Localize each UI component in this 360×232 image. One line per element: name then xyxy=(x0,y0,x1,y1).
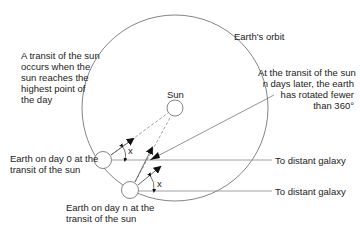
arrow-callout-head xyxy=(150,152,160,160)
earth-day0-label: Earth on day 0 at the transit of the sun xyxy=(10,153,98,175)
sun xyxy=(167,100,183,116)
angle-label-1: x xyxy=(128,145,133,156)
earth-dayn-label: Earth on day n at the transit of the sun xyxy=(66,202,154,224)
galaxy-label-2: To distant galaxy xyxy=(275,186,346,197)
angle-label-2: x xyxy=(157,178,162,189)
earth-dayn xyxy=(122,182,139,199)
angle-arc-dayn xyxy=(150,175,154,191)
transit-definition-text: A transit of the sun occurs when the sun… xyxy=(21,50,100,105)
diagram-canvas xyxy=(0,0,360,232)
arrow-dayn-up xyxy=(135,148,152,182)
angle-arc-day0 xyxy=(122,146,126,160)
orbit-label: Earth's orbit xyxy=(234,31,284,42)
galaxy-label-1: To distant galaxy xyxy=(275,155,346,166)
sun-line-dayn xyxy=(135,116,171,182)
sun-label: Sun xyxy=(167,89,184,100)
transit-n-days-text: At the transit of the sun n days later, … xyxy=(258,67,354,111)
